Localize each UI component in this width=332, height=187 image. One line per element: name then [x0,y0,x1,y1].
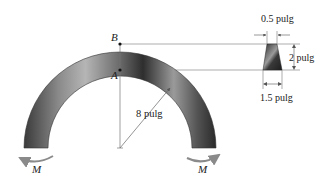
curved-beam-figure: B A 8 pulg M M 0.5 pulg 2 pulg 1.5 pulg [0,0,332,187]
moment-arrow-left [20,156,53,162]
label-b: B [111,31,118,43]
top-width-label: 0.5 pulg [261,13,294,24]
moment-label-left: M [31,163,42,175]
moment-arrow-right [187,155,219,161]
height-arrow-bottom [292,66,296,70]
point-b [118,42,121,45]
height-arrow-top [292,44,296,48]
point-a [118,68,121,71]
cross-section [263,44,282,70]
radius-label: 8 pulg [136,108,163,119]
height-label: 2 pulg [289,52,314,63]
bottom-width-arrow-left [263,82,267,86]
label-a: A [110,69,118,81]
bottom-width-label: 1.5 pulg [260,92,293,103]
moment-label-right: M [197,163,208,175]
bottom-width-arrow-right [278,82,282,86]
